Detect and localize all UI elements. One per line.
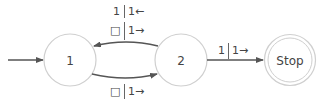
t21-line1-write: 1← xyxy=(128,6,144,18)
edge-1-to-2 xyxy=(92,74,157,78)
t2s-read: 1 xyxy=(218,45,225,57)
edge-2-to-1 xyxy=(94,42,158,46)
t21-line2-read: □ xyxy=(110,25,120,37)
state-1[interactable]: 1 xyxy=(44,34,96,86)
t12-read: □ xyxy=(110,86,120,98)
state-2-label: 2 xyxy=(177,54,185,68)
t12-write: 1→ xyxy=(128,86,144,98)
t2s-write: 1→ xyxy=(232,45,248,57)
state-2[interactable]: 2 xyxy=(155,34,207,86)
state-1-label: 1 xyxy=(66,54,74,68)
t21-line2-write: 1→ xyxy=(128,25,144,37)
t21-line1-read: 1 xyxy=(113,6,120,18)
state-stop-label: Stop xyxy=(276,54,303,68)
state-diagram: 1 2 Stop xyxy=(0,0,327,104)
state-stop[interactable]: Stop xyxy=(265,35,316,86)
